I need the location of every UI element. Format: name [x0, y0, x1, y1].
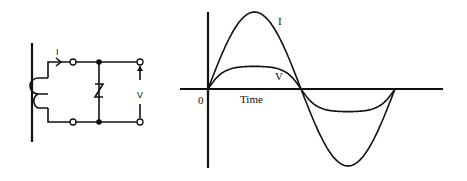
ct-coil-lower	[34, 94, 48, 108]
current-label: I	[56, 47, 59, 57]
output-terminal-top	[137, 59, 143, 65]
voltage-arrow-icon	[137, 66, 143, 71]
circuit-diagram: I V	[30, 43, 143, 142]
voltage-label: V	[137, 90, 143, 100]
figure: I V 0 Time I V	[0, 0, 467, 181]
curve-voltage-label: V	[275, 70, 283, 82]
waveform-plot: 0 Time I V	[180, 12, 443, 168]
origin-label: 0	[198, 94, 204, 106]
input-terminal-top	[70, 59, 76, 65]
curve-current-label: I	[278, 15, 282, 27]
input-terminal-bottom	[70, 119, 76, 125]
output-terminal-bottom	[137, 119, 143, 125]
bottom-lead	[48, 108, 70, 122]
x-axis-label: Time	[240, 93, 263, 105]
